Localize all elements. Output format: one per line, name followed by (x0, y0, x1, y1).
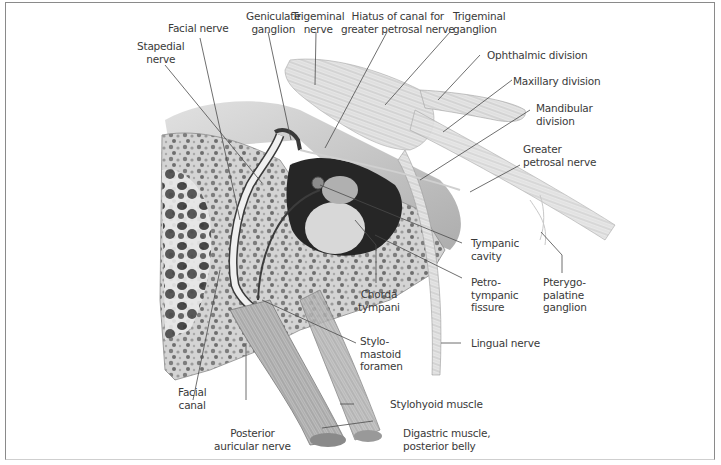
label-trigeminal-ganglion: Trigeminal ganglion (453, 10, 505, 35)
label-mandibular-division: Mandibular division (536, 102, 593, 127)
label-trigeminal-nerve: Trigeminal nerve (292, 10, 344, 35)
label-digastric-muscle: Digastric muscle, posterior belly (403, 427, 490, 452)
label-chorda-tympani: Chorda tympani (358, 288, 400, 313)
label-tympanic-cavity: Tympanic cavity (471, 237, 519, 262)
label-ophthalmic-division: Ophthalmic division (487, 49, 587, 62)
label-hiatus-greater-petrosal: Hiatus of canal for greater petrosal ner… (341, 10, 455, 35)
label-posterior-auricular-nerve: Posterior auricular nerve (214, 427, 291, 452)
label-lingual-nerve: Lingual nerve (471, 337, 540, 350)
label-stylomastoid-foramen: Stylo- mastoid foramen (360, 335, 403, 373)
label-stapedial-nerve: Stapedial nerve (137, 40, 184, 65)
label-stylohyoid-muscle: Stylohyoid muscle (390, 398, 483, 411)
label-maxillary-division: Maxillary division (513, 75, 600, 88)
anatomical-illustration (0, 0, 721, 465)
label-greater-petrosal-nerve: Greater petrosal nerve (523, 143, 596, 168)
label-facial-nerve: Facial nerve (168, 22, 229, 35)
label-petrotympanic-fissure: Petro- tympanic fissure (471, 276, 518, 314)
label-facial-canal: Facial canal (178, 386, 206, 411)
label-pterygopalatine-ganglion: Pterygo- palatine ganglion (543, 276, 587, 314)
